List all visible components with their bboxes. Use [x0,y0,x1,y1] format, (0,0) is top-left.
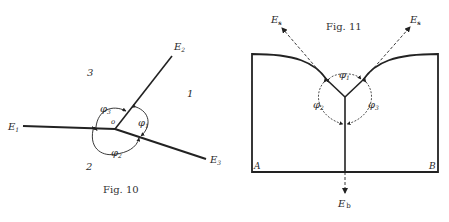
center-mark: o [111,118,115,126]
angle-label-phi3: φ3 [368,99,379,111]
angle-label-phi1: φ1 [138,117,149,129]
figure-10: o φ3 φ1 φ2 E1 E2 E3 3 1 2 Fig. 10 [7,41,221,195]
angle-label-phi2: φ2 [313,99,324,111]
region-label-3: 3 [87,67,93,78]
angle-label-phi2: φ2 [111,147,122,159]
figure-11-caption: Fig. 11 [326,21,362,32]
boundary-left [326,79,345,97]
edge-label-eb: Eb [337,198,351,210]
arrow-es-left [282,28,326,79]
edge-e1-line [23,126,115,129]
angle-label-phi1: φ1 [339,69,350,81]
region-label-2: 2 [85,161,92,172]
arrow-es-right [364,27,410,79]
edge-label-es-right: Es [409,14,421,26]
edge-label-e2: E2 [173,41,185,53]
figure-11: φ1 φ2 φ3 Es Es Eb A B Fig. 11 [252,14,438,210]
figure-10-caption: Fig. 10 [103,184,139,195]
edge-e3-line [115,129,206,159]
boundary-right [345,79,364,97]
corner-label-a: A [253,161,261,171]
edge-label-e3: E3 [209,154,221,166]
edge-label-es-left: Es [270,14,282,26]
angle-label-phi3: φ3 [100,103,111,115]
edge-label-e1: E1 [7,121,19,133]
angle-arc-phi2 [318,82,343,124]
corner-label-b: B [428,161,436,171]
figure-canvas: o φ3 φ1 φ2 E1 E2 E3 3 1 2 Fig. 10 φ1 φ2 … [0,0,449,222]
region-label-1: 1 [187,88,193,99]
